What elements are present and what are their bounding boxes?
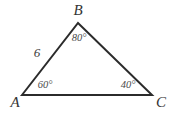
side-length-label-ab: 6 [34, 46, 41, 59]
triangle-svg [0, 0, 178, 113]
angle-label-a: 60° [38, 80, 53, 91]
angle-label-c: 40° [121, 80, 136, 91]
vertex-label-c: C [156, 95, 166, 110]
triangle-figure: A B C 6 60° 80° 40° [0, 0, 178, 113]
vertex-label-b: B [73, 3, 82, 18]
vertex-label-a: A [10, 95, 19, 110]
angle-label-b: 80° [72, 33, 87, 44]
